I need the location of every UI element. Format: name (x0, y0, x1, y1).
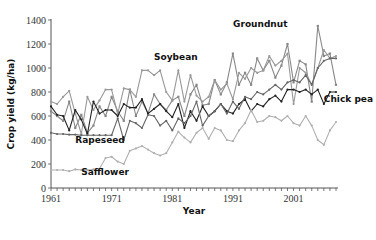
data-point (238, 103, 240, 105)
data-point (220, 103, 222, 105)
series-line (51, 50, 336, 134)
label-soybean: Soybean (154, 52, 198, 62)
y-tick-label: 200 (31, 159, 46, 170)
data-point (280, 89, 282, 91)
data-point (226, 139, 228, 141)
data-point (250, 98, 252, 100)
data-point (232, 98, 234, 100)
data-point (104, 115, 106, 117)
data-point (299, 67, 301, 69)
data-point (153, 93, 155, 95)
x-tick-label: 1971 (102, 193, 122, 204)
data-point (256, 91, 258, 93)
label-chick-pea: Chick pea (324, 94, 373, 104)
data-point (226, 83, 228, 85)
data-point (299, 60, 301, 62)
data-point (171, 141, 173, 143)
data-point (135, 115, 137, 117)
data-point (165, 152, 167, 154)
data-point (177, 131, 179, 133)
data-point (292, 89, 294, 91)
x-axis-title: Year (182, 206, 206, 216)
data-point (123, 163, 125, 165)
data-point (50, 110, 52, 112)
data-point (68, 90, 70, 92)
data-point (74, 168, 76, 170)
data-point (286, 81, 288, 83)
y-tick-label: 600 (31, 111, 46, 122)
data-point (111, 96, 113, 98)
data-point (183, 122, 185, 124)
data-point (98, 105, 100, 107)
data-point (250, 67, 252, 69)
data-point (159, 155, 161, 157)
data-point (189, 74, 191, 76)
data-point (220, 93, 222, 95)
data-point (250, 84, 252, 86)
data-point (299, 81, 301, 83)
data-point (104, 89, 106, 91)
data-point (50, 169, 52, 171)
data-point (68, 134, 70, 136)
data-point (147, 149, 149, 151)
data-point (274, 65, 276, 67)
data-point (111, 156, 113, 158)
data-point (68, 129, 70, 131)
x-tick-label: 1961 (41, 193, 61, 204)
data-point (305, 72, 307, 74)
data-point (280, 60, 282, 62)
data-point (268, 98, 270, 100)
data-point (286, 115, 288, 117)
data-point (323, 49, 325, 51)
series-chick-pea (50, 89, 337, 136)
data-point (171, 116, 173, 118)
data-point (201, 105, 203, 107)
data-point (256, 121, 258, 123)
data-point (56, 114, 58, 116)
data-point (56, 169, 58, 171)
data-point (195, 95, 197, 97)
data-point (256, 72, 258, 74)
x-tick-label: 1981 (162, 193, 182, 204)
data-point (232, 101, 234, 103)
data-point (311, 125, 313, 127)
data-point (244, 96, 246, 98)
data-point (280, 120, 282, 122)
data-point (286, 53, 288, 55)
data-point (111, 109, 113, 111)
data-point (117, 161, 119, 163)
data-point (268, 89, 270, 91)
data-point (305, 115, 307, 117)
data-point (317, 25, 319, 27)
data-point (329, 129, 331, 131)
data-point (262, 105, 264, 107)
data-point (92, 109, 94, 111)
data-point (268, 60, 270, 62)
data-point (311, 84, 313, 86)
data-point (262, 69, 264, 71)
data-point (189, 93, 191, 95)
data-point (62, 115, 64, 117)
label-rapeseed: Rapeseed (75, 135, 125, 145)
data-point (74, 127, 76, 129)
data-point (177, 117, 179, 119)
data-point (92, 125, 94, 127)
data-point (299, 125, 301, 127)
data-point (153, 115, 155, 117)
data-point (208, 138, 210, 140)
data-point (214, 127, 216, 129)
data-point (244, 72, 246, 74)
y-tick-label: 1200 (26, 39, 46, 50)
data-point (274, 116, 276, 118)
data-point (201, 101, 203, 103)
data-point (274, 77, 276, 79)
data-point (268, 55, 270, 57)
data-point (104, 109, 106, 111)
data-point (214, 110, 216, 112)
data-point (305, 63, 307, 65)
data-point (56, 133, 58, 135)
data-point (123, 87, 125, 89)
data-point (159, 69, 161, 71)
data-point (50, 101, 52, 103)
data-point (274, 95, 276, 97)
